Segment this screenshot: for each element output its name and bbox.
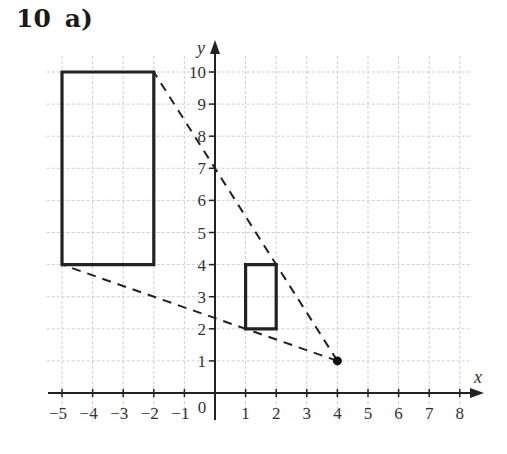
x-tick-label: 2 — [272, 404, 281, 423]
y-axis-arrow-icon — [210, 40, 220, 54]
dashed-ray — [62, 265, 337, 361]
x-tick-label: 6 — [394, 404, 403, 423]
x-tick-label: −5 — [49, 404, 67, 423]
x-tick-label: −2 — [141, 404, 159, 423]
y-tick-label: 1 — [198, 352, 207, 371]
y-tick-label: 10 — [189, 63, 206, 82]
centre-of-enlargement — [333, 356, 342, 365]
tick-labels: −5−4−3−2−112345678123456789100xy — [49, 38, 482, 423]
y-tick-label: 2 — [198, 320, 207, 339]
x-tick-label: −3 — [110, 404, 128, 423]
x-tick-label: 5 — [364, 404, 373, 423]
x-tick-label: 7 — [425, 404, 434, 423]
y-tick-label: 8 — [198, 127, 207, 146]
x-axis-arrow-icon — [470, 388, 484, 398]
x-tick-label: −1 — [171, 404, 189, 423]
y-tick-label: 6 — [198, 191, 207, 210]
small-rectangle — [246, 265, 277, 329]
coordinate-grid: −5−4−3−2−112345678123456789100xy — [0, 0, 507, 454]
y-tick-label: 5 — [198, 224, 207, 243]
x-tick-label: −4 — [80, 404, 99, 423]
y-tick-label: 9 — [198, 95, 207, 114]
y-tick-label: 7 — [198, 159, 207, 178]
y-tick-label: 3 — [198, 288, 207, 307]
origin-label: 0 — [198, 398, 207, 417]
x-tick-label: 4 — [333, 404, 342, 423]
x-tick-label: 8 — [456, 404, 465, 423]
x-axis-label: x — [473, 367, 482, 387]
x-tick-label: 1 — [241, 404, 250, 423]
y-axis-label: y — [195, 38, 205, 58]
axes — [48, 40, 484, 420]
x-tick-label: 3 — [303, 404, 312, 423]
y-tick-label: 4 — [198, 256, 207, 275]
